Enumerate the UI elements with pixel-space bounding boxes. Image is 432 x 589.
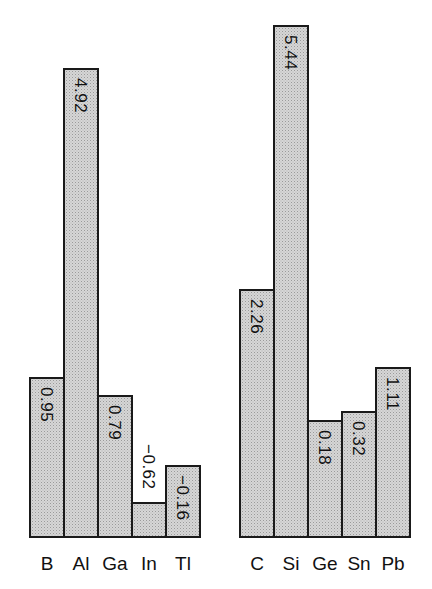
category-label-ga: Ga xyxy=(98,553,132,575)
category-label-b: B xyxy=(30,553,64,575)
category-label-c: C xyxy=(240,553,274,575)
category-label-si: Si xyxy=(274,553,308,575)
category-label-ge: Ge xyxy=(308,553,342,575)
value-label-tl: −0.16 xyxy=(172,475,192,521)
bar-in xyxy=(131,502,167,538)
value-label-b: 0.95 xyxy=(36,387,56,422)
value-label-sn: 0.32 xyxy=(348,421,368,456)
category-label-pb: Pb xyxy=(376,553,410,575)
value-label-si: 5.44 xyxy=(280,35,300,70)
bar-chart: 0.95B4.92Al0.79Ga−0.62In−0.16Tl2.26C5.44… xyxy=(0,0,432,589)
category-label-in: In xyxy=(132,553,166,575)
value-label-ga: 0.79 xyxy=(104,405,124,440)
category-label-tl: Tl xyxy=(166,553,200,575)
value-label-in: −0.62 xyxy=(138,444,158,490)
value-label-c: 2.26 xyxy=(246,299,266,334)
value-label-pb: 1.11 xyxy=(382,377,402,411)
bar-al xyxy=(63,68,99,538)
bar-si xyxy=(273,25,309,538)
value-label-ge: 0.18 xyxy=(314,430,334,465)
value-label-al: 4.92 xyxy=(70,78,90,113)
category-label-al: Al xyxy=(64,553,98,575)
category-label-sn: Sn xyxy=(342,553,376,575)
